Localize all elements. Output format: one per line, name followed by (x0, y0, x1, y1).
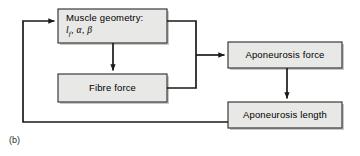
edge-fibre-force-to-junction (167, 55, 196, 88)
figure-caption: (b) (9, 135, 20, 145)
muscle-geometry-box (58, 9, 167, 43)
aponeurosis-length-box (228, 102, 342, 128)
aponeurosis-force-box (228, 42, 342, 68)
diagram-canvas (0, 0, 360, 156)
fibre-force-box (58, 74, 167, 102)
figure-diagram: Muscle geometry: lf, α, β Fibre force Ap… (0, 0, 360, 156)
edge-muscle-geometry-to-junction (167, 21, 196, 55)
